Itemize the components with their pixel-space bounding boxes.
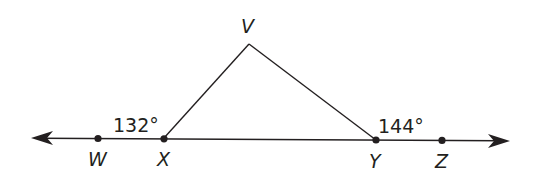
label-z: Z [435,152,448,171]
point-x [160,135,167,142]
label-y: Y [369,152,381,171]
point-z [438,137,445,144]
segment-vy [249,44,376,140]
line-wz [40,138,500,141]
point-w [94,135,101,142]
label-x: X [157,150,170,169]
segment-xv [164,44,249,138]
angle-x-label: 132° [113,116,159,135]
label-w: W [88,150,107,169]
point-y [372,136,379,143]
triangle-diagram [0,0,538,185]
angle-y-label: 144° [378,117,424,136]
label-v: V [241,17,254,36]
